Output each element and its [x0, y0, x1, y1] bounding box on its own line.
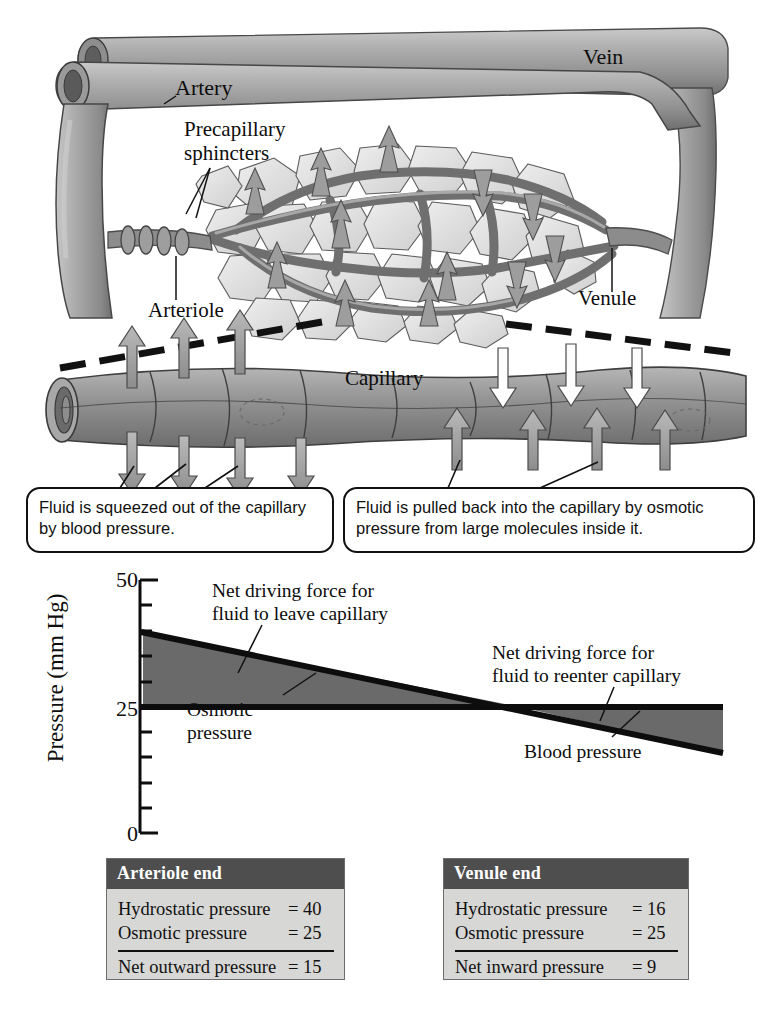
table-total-row: Net inward pressure = 9	[455, 957, 678, 978]
table-header-arteriole: Arteriole end	[107, 859, 344, 889]
row-value: = 40	[288, 897, 334, 921]
table-body-venule: Hydrostatic pressure = 16 Osmotic pressu…	[444, 889, 688, 984]
table-row: Osmotic pressure = 25	[455, 921, 678, 945]
callout-fluid-in: Fluid is pulled back into the capillary …	[343, 487, 755, 553]
callout-fluid-out: Fluid is squeezed out of the capillary b…	[26, 487, 334, 553]
row-value: = 16	[632, 897, 678, 921]
pressure-graph: Pressure (mm Hg) 50 25 0	[0, 555, 773, 845]
total-value: = 15	[288, 957, 334, 978]
row-label: Hydrostatic pressure	[118, 897, 271, 921]
annotation-net-leave: Net driving force for fluid to leave cap…	[212, 579, 388, 625]
total-label: Net inward pressure	[455, 957, 604, 978]
table-venule-end: Venule end Hydrostatic pressure = 16 Osm…	[443, 858, 689, 980]
label-artery: Artery	[175, 76, 232, 101]
label-vein: Vein	[583, 45, 623, 70]
row-label: Osmotic pressure	[118, 921, 247, 945]
label-precapillary-sphincters: Precapillary sphincters	[184, 118, 285, 165]
row-label: Osmotic pressure	[455, 921, 584, 945]
total-label: Net outward pressure	[118, 957, 276, 978]
capillary-exchange-figure: Artery Vein Precapillary sphincters Arte…	[0, 0, 773, 1017]
table-row: Hydrostatic pressure = 16	[455, 897, 678, 921]
row-label: Hydrostatic pressure	[455, 897, 608, 921]
table-header-venule: Venule end	[444, 859, 688, 889]
table-divider	[455, 950, 678, 952]
label-capillary: Capillary	[345, 367, 423, 391]
annotation-osmotic-pressure: Osmotic pressure	[187, 698, 253, 744]
row-value: = 25	[632, 921, 678, 945]
annotation-blood-pressure: Blood pressure	[524, 740, 642, 763]
table-divider	[118, 950, 334, 952]
table-arteriole-end: Arteriole end Hydrostatic pressure = 40 …	[106, 858, 345, 980]
row-value: = 25	[288, 921, 334, 945]
table-total-row: Net outward pressure = 15	[118, 957, 334, 978]
total-value: = 9	[632, 957, 678, 978]
table-row: Osmotic pressure = 25	[118, 921, 334, 945]
y-axis-ticks	[140, 580, 158, 833]
table-body-arteriole: Hydrostatic pressure = 40 Osmotic pressu…	[107, 889, 344, 984]
label-venule: Venule	[578, 287, 636, 311]
table-row: Hydrostatic pressure = 40	[118, 897, 334, 921]
label-arteriole: Arteriole	[148, 299, 224, 323]
annotation-net-reenter: Net driving force for fluid to reenter c…	[492, 641, 681, 687]
